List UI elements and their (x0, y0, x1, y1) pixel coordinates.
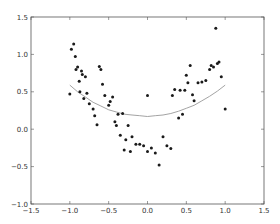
data-point (127, 124, 130, 127)
x-tick-label: 1.0 (220, 207, 231, 215)
data-point (179, 89, 182, 92)
data-point (134, 143, 137, 146)
data-point (96, 123, 99, 126)
data-point (115, 124, 118, 127)
data-point (124, 138, 127, 141)
data-point (186, 81, 189, 84)
data-point (113, 120, 116, 123)
data-point (212, 66, 215, 69)
data-point (150, 146, 153, 149)
y-tick-label: 1.5 (17, 14, 28, 22)
data-point (107, 104, 110, 107)
data-point (119, 134, 122, 137)
data-point (208, 68, 211, 71)
data-point (117, 113, 120, 116)
data-point (204, 79, 207, 82)
data-point (191, 93, 194, 96)
axes-frame (31, 17, 264, 204)
data-point (92, 108, 95, 111)
data-point (72, 42, 75, 45)
x-tick-label: −0.5 (100, 207, 117, 215)
y-axis: −1.0−0.50.00.51.01.5 (11, 14, 264, 209)
data-point (85, 92, 88, 95)
data-point (181, 113, 184, 116)
data-point (193, 99, 196, 102)
x-tick-label: 1.5 (258, 207, 269, 215)
data-point (78, 90, 81, 93)
data-point (93, 114, 96, 117)
data-point (169, 147, 172, 150)
data-point (129, 150, 132, 153)
data-point (158, 164, 161, 167)
data-point (70, 48, 73, 51)
data-point (82, 97, 85, 100)
scatter-points (68, 27, 226, 167)
data-point (220, 75, 223, 78)
data-point (84, 75, 87, 78)
x-tick-label: −1.0 (61, 207, 78, 215)
data-point (111, 96, 114, 99)
data-point (189, 64, 192, 67)
data-point (200, 81, 203, 84)
x-tick-label: 0.5 (181, 207, 192, 215)
data-point (173, 88, 176, 91)
data-point (81, 73, 84, 76)
y-tick-label: 0.5 (17, 88, 28, 96)
data-point (99, 68, 102, 71)
y-tick-label: 1.0 (17, 51, 28, 59)
data-point (197, 81, 200, 84)
y-tick-label: 0.0 (17, 126, 28, 134)
data-point (146, 94, 149, 97)
data-point (165, 144, 168, 147)
data-point (103, 94, 106, 97)
y-tick-label: −0.5 (11, 163, 28, 171)
data-point (183, 89, 186, 92)
fit-line (70, 85, 225, 116)
data-point (218, 60, 221, 63)
data-point (171, 94, 174, 97)
x-tick-label: 0.0 (142, 207, 153, 215)
data-point (177, 117, 180, 120)
data-point (131, 135, 134, 138)
data-point (101, 83, 104, 86)
data-point (185, 74, 188, 77)
data-point (68, 93, 71, 96)
scatter-chart: −1.5−1.0−0.50.00.51.01.5 −1.0−0.50.00.51… (0, 0, 280, 224)
data-point (78, 80, 81, 83)
data-point (121, 112, 124, 115)
data-point (224, 108, 227, 111)
data-point (98, 65, 101, 68)
data-point (154, 152, 157, 155)
data-point (123, 149, 126, 152)
data-point (146, 150, 149, 153)
data-point (142, 144, 145, 147)
data-point (109, 100, 112, 103)
data-point (76, 66, 79, 69)
plot-area (31, 17, 264, 204)
data-point (214, 27, 217, 30)
data-point (80, 69, 83, 72)
y-tick-label: −1.0 (11, 201, 28, 209)
data-point (162, 135, 165, 138)
data-point (138, 143, 141, 146)
data-point (88, 102, 91, 105)
fit-curve (70, 85, 225, 116)
data-point (74, 55, 77, 58)
